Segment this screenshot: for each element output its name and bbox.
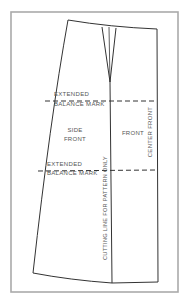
label-cutting-line: CUTTING LINE FOR PATTERN ONLY [102, 156, 108, 260]
dart-right-leg [110, 28, 116, 82]
center-front-edge [157, 29, 158, 282]
side-seam [33, 20, 68, 273]
label-front: FRONT [122, 130, 144, 136]
label-extended-top: EXTENDED [54, 91, 89, 97]
waistline [68, 20, 157, 29]
label-balance-mark-top: BALANCE MARK [54, 101, 105, 107]
hemline [33, 273, 158, 283]
label-side-front: FRONT [64, 136, 86, 142]
label-center-front: CENTER FRONT [147, 107, 153, 158]
pattern-diagram: EXTENDED BALANCE MARK SIDE FRONT FRONT E… [0, 0, 187, 303]
cutting-line [110, 82, 112, 283]
label-side: SIDE [67, 127, 82, 133]
label-balance-mark-bottom: BALANCE MARK [47, 170, 98, 176]
label-extended-bottom: EXTENDED [47, 161, 82, 167]
